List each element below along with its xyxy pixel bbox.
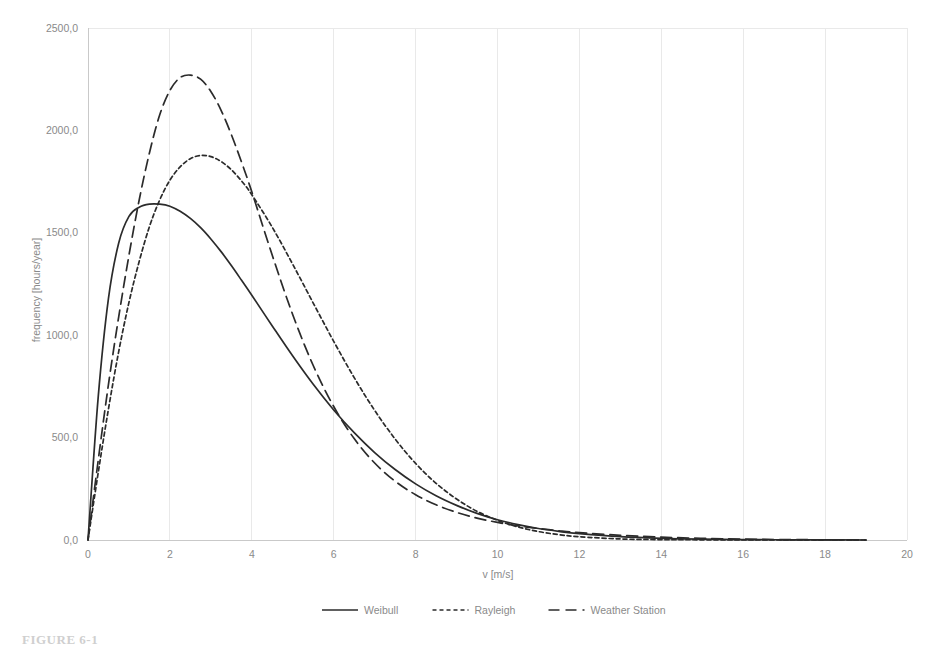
x-tick-label: 20 — [901, 548, 913, 560]
x-tick-label: 4 — [249, 548, 255, 560]
data-series-curves — [88, 75, 866, 540]
x-tick-label: 12 — [574, 548, 586, 560]
x-tick-label: 14 — [655, 548, 667, 560]
legend-label-rayleigh: Rayleigh — [475, 604, 516, 616]
y-tick-label: 2500,0 — [46, 22, 78, 34]
x-tick-label: 18 — [819, 548, 831, 560]
x-axis-tick-labels: 02468101214161820 — [85, 548, 913, 560]
figure-caption: FIGURE 6-1 — [22, 632, 98, 645]
legend-label-weather-station: Weather Station — [591, 604, 666, 616]
series-curve-weather-station — [88, 75, 866, 540]
x-tick-label: 2 — [167, 548, 173, 560]
figure-container: 0,0500,01000,01500,02000,02500,0 0246810… — [0, 0, 951, 645]
x-tick-label: 8 — [413, 548, 419, 560]
x-axis-title: v [m/s] — [483, 568, 514, 580]
y-tick-label: 1000,0 — [46, 329, 78, 341]
wind-speed-frequency-chart: 0,0500,01000,01500,02000,02500,0 0246810… — [0, 0, 951, 645]
y-axis-tick-labels: 0,0500,01000,01500,02000,02500,0 — [46, 22, 78, 546]
y-axis-title: frequency [hours/year] — [30, 238, 42, 343]
gridlines — [88, 28, 907, 540]
y-tick-label: 500,0 — [52, 431, 78, 443]
x-tick-label: 16 — [737, 548, 749, 560]
series-curve-weibull — [88, 204, 866, 540]
x-tick-label: 10 — [492, 548, 504, 560]
x-tick-label: 0 — [85, 548, 91, 560]
chart-legend: WeibullRayleighWeather Station — [322, 604, 666, 616]
y-tick-label: 1500,0 — [46, 226, 78, 238]
x-tick-label: 6 — [331, 548, 337, 560]
series-curve-rayleigh — [88, 155, 866, 540]
y-tick-label: 2000,0 — [46, 124, 78, 136]
legend-label-weibull: Weibull — [364, 604, 398, 616]
y-tick-label: 0,0 — [63, 534, 78, 546]
